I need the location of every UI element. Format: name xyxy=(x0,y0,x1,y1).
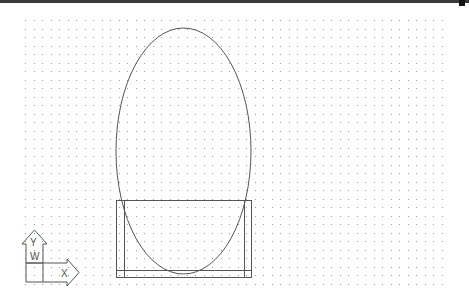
drawing-entities xyxy=(116,28,252,278)
dot-grid xyxy=(25,20,443,285)
ellipse-entity[interactable] xyxy=(116,28,251,274)
drawing-canvas[interactable]: Y W X xyxy=(0,0,469,306)
ucs-w-label: W xyxy=(30,251,40,262)
ucs-y-label: Y xyxy=(30,237,37,248)
ucs-x-label: X xyxy=(61,268,68,279)
ucs-icon: Y W X xyxy=(22,230,79,286)
